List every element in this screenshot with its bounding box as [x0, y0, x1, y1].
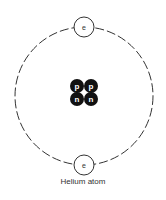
diagram-caption: Helium atom [0, 177, 166, 186]
electron-top: e [74, 17, 94, 37]
neutron-1-label: n [75, 95, 80, 104]
electron-top-label: e [82, 24, 86, 31]
nucleus: p p n n [70, 79, 98, 106]
helium-atom-diagram: p p n n e e [0, 0, 166, 200]
neutron-2-label: n [89, 95, 94, 104]
electron-bottom-label: e [82, 162, 86, 169]
proton-1-label: p [75, 82, 80, 91]
proton-2-label: p [89, 82, 94, 91]
electron-orbit [15, 27, 153, 165]
electron-bottom: e [74, 155, 94, 175]
